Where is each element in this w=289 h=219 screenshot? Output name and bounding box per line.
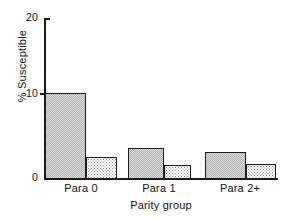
- bar-para2plus-series2[interactable]: [246, 164, 276, 179]
- bar-para0-series1[interactable]: [45, 93, 86, 179]
- bar-chart: 20 10 0 % Susceptible Parity group Para …: [0, 0, 289, 219]
- bar-para2plus-series1[interactable]: [205, 152, 246, 179]
- x-category-label-para1: Para 1: [128, 182, 190, 194]
- y-axis-tick-20: [44, 18, 50, 20]
- y-axis-tick-label-0: 0: [0, 172, 38, 183]
- x-category-label-para2plus: Para 2+: [205, 182, 275, 194]
- x-axis-title: Parity group: [44, 199, 278, 211]
- y-axis-title: % Susceptible: [16, 0, 28, 136]
- bar-para1-series2[interactable]: [164, 165, 191, 179]
- bar-para0-series2[interactable]: [86, 157, 117, 179]
- x-category-label-para0: Para 0: [45, 182, 117, 194]
- bar-para1-series1[interactable]: [128, 148, 164, 179]
